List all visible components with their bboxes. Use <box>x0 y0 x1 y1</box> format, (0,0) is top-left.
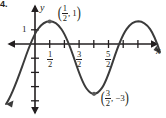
fraction-five-halves: 5 2 <box>105 50 111 68</box>
close-paren: ) <box>77 6 81 20</box>
trig-graph-figure: 4. y x 1 1 2 3 2 5 2 ( 1 2 , 1 ) <box>0 0 166 118</box>
x-tick-label-three-halves: 3 2 <box>73 50 85 68</box>
fraction-one-half: 1 2 <box>47 50 53 68</box>
y-tick-label-1: 1 <box>22 25 27 34</box>
open-paren: ( <box>100 91 104 105</box>
fraction-three-halves: 3 2 <box>76 50 82 68</box>
x-tick-label-half: 1 2 <box>44 50 56 68</box>
annotation-y-value: −3 <box>115 94 125 103</box>
max-point-annotation: ( 1 2 , 1 ) <box>57 4 81 22</box>
min-point-marker <box>92 92 96 96</box>
y-axis-label: y <box>40 3 44 13</box>
open-paren: ( <box>57 6 61 20</box>
min-point-annotation: ( 3 2 , −3 ) <box>100 89 129 107</box>
problem-number: 4. <box>0 0 8 9</box>
x-axis-label: x <box>156 46 160 56</box>
close-paren: ) <box>125 91 129 105</box>
x-tick-label-five-halves: 5 2 <box>102 50 114 68</box>
max-point-marker <box>48 19 52 23</box>
